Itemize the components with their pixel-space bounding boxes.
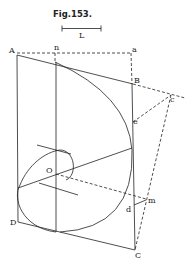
label-d: d xyxy=(126,205,131,214)
line-d-m xyxy=(134,200,146,205)
line-AB xyxy=(17,55,133,84)
line-e-c-dashed xyxy=(133,95,171,122)
involute-arc-large xyxy=(55,62,132,150)
figure-title: Fig.153. xyxy=(53,9,92,19)
label-O: O xyxy=(46,166,53,175)
scale-label: L xyxy=(79,31,85,40)
geometric-diagram: Fig.153. L xyxy=(0,0,195,266)
tangent-tick-top xyxy=(37,145,71,154)
line-c-C-dashed xyxy=(135,95,171,250)
label-m: m xyxy=(148,196,156,205)
line-aB-dashed xyxy=(131,53,132,84)
label-n: n xyxy=(54,43,59,52)
label-A: A xyxy=(8,46,15,55)
line-O-radius xyxy=(18,148,132,188)
line-DC xyxy=(18,222,135,250)
label-a: a xyxy=(132,45,137,54)
involute-arc-lower xyxy=(60,150,132,232)
label-D: D xyxy=(10,218,16,227)
label-B: B xyxy=(134,76,140,85)
label-C: C xyxy=(135,251,141,260)
tangent-tick-bottom xyxy=(39,183,78,195)
label-e: e xyxy=(133,117,138,126)
line-BC xyxy=(132,84,135,250)
line-B-c-dashed xyxy=(133,84,185,98)
label-c: c xyxy=(170,95,175,104)
